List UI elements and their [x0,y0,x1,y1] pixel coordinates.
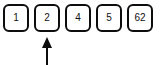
array-diagram: 1 2 4 5 62 [0,0,162,65]
array-cell[interactable]: 5 [96,4,122,32]
array-cell-value: 4 [75,13,81,23]
array-cell-value: 1 [13,13,19,23]
up-arrow-icon [36,36,58,65]
array-cell[interactable]: 1 [3,4,29,32]
array-cell-value: 62 [134,13,145,23]
array-cell[interactable]: 62 [127,4,153,32]
array-cell[interactable]: 2 [34,4,60,32]
array-cell[interactable]: 4 [65,4,91,32]
array-cell-value: 5 [106,13,112,23]
array-cell-value: 2 [44,13,50,23]
cell-row: 1 2 4 5 62 [0,0,162,36]
